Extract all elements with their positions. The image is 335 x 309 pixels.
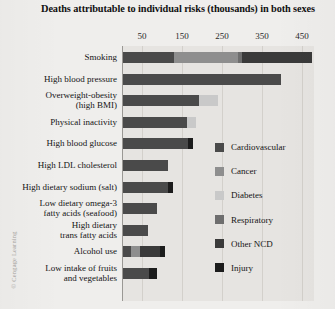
bar-row — [123, 246, 165, 257]
bar-row — [123, 52, 312, 63]
x-axis-tick-250: 250 — [215, 31, 229, 41]
legend-item: Diabetes — [215, 188, 333, 202]
bar-row — [123, 117, 196, 128]
bar-row — [123, 138, 193, 149]
bar-segment-cardiovascular — [123, 203, 157, 214]
bar-segment-cancer — [174, 52, 238, 63]
x-axis-tick-450: 450 — [295, 31, 309, 41]
bar-segment-other-ncd — [140, 246, 160, 257]
bar-segment-cardiovascular — [123, 268, 149, 279]
x-axis-tick-150: 150 — [175, 31, 189, 41]
legend-item: Respiratory — [215, 213, 333, 227]
legend-swatch-icon — [215, 215, 224, 224]
legend: CardiovascularCancerDiabetesRespiratoryO… — [215, 140, 333, 285]
legend-swatch-icon — [215, 191, 224, 200]
category-label: Overweight-obesity (high BMI) — [1, 90, 117, 110]
legend-label: Cardiovascular — [231, 142, 285, 152]
legend-label: Respiratory — [231, 215, 273, 225]
legend-label: Diabetes — [231, 190, 263, 200]
legend-item: Cardiovascular — [215, 140, 333, 154]
bar-row — [123, 268, 157, 279]
bar-segment-cardiovascular — [123, 95, 199, 106]
legend-item: Cancer — [215, 164, 333, 178]
category-label: High LDL cholesterol — [1, 160, 117, 170]
bar-row — [123, 74, 281, 85]
category-label: High dietary trans fatty acids — [1, 220, 117, 240]
category-label: High blood glucose — [1, 138, 117, 148]
legend-item: Injury — [215, 261, 333, 275]
bar-segment-injury — [188, 138, 193, 149]
bar-segment-cardiovascular — [123, 182, 168, 193]
legend-swatch-icon — [215, 167, 224, 176]
bar-row — [123, 160, 168, 171]
bar-segment-cardiovascular — [123, 117, 187, 128]
category-label: Alcohol use — [1, 246, 117, 256]
legend-swatch-icon — [215, 263, 224, 272]
bar-row — [123, 225, 148, 236]
category-label: Low dietary omega-3 fatty acids (seafood… — [1, 198, 117, 218]
category-label: Low intake of fruits and vegetables — [1, 263, 117, 283]
category-label: High dietary sodium (salt) — [1, 182, 117, 192]
x-axis-tick-350: 350 — [255, 31, 269, 41]
bar-segment-cardiovascular — [123, 246, 131, 257]
legend-swatch-icon — [215, 239, 224, 248]
bar-segment-cardiovascular — [123, 52, 174, 63]
figure-deaths-attributable-to-individual-risks: Deaths attributable to individual risks … — [0, 0, 335, 309]
bar-row — [123, 182, 173, 193]
y-axis-category-labels: SmokingHigh blood pressureOverweight-obe… — [0, 0, 120, 309]
bar-segment-diabetes — [187, 117, 196, 128]
category-label: Physical inactivity — [1, 117, 117, 127]
legend-swatch-icon — [215, 143, 224, 152]
bar-segment-injury — [160, 246, 165, 257]
bar-segment-injury — [168, 182, 173, 193]
bar-segment-cancer — [131, 246, 140, 257]
bar-segment-injury — [149, 268, 157, 279]
bar-segment-cardiovascular — [123, 138, 188, 149]
legend-item: Other NCD — [215, 237, 333, 251]
bar-segment-other-ncd — [242, 52, 312, 63]
bar-segment-cardiovascular — [123, 74, 281, 85]
bar-segment-diabetes — [199, 95, 218, 106]
x-axis-tick-50: 50 — [138, 31, 147, 41]
bar-segment-cardiovascular — [123, 160, 168, 171]
category-label: High blood pressure — [1, 74, 117, 84]
legend-label: Cancer — [231, 166, 256, 176]
legend-label: Other NCD — [231, 239, 273, 249]
bar-row — [123, 95, 218, 106]
category-label: Smoking — [1, 52, 117, 62]
bar-row — [123, 203, 157, 214]
legend-label: Injury — [231, 263, 253, 273]
bar-segment-cardiovascular — [123, 225, 148, 236]
copyright-credit: © Cengage Learning — [10, 219, 17, 289]
